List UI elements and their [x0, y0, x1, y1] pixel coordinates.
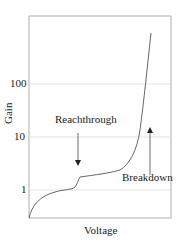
ytick-10: 10 [14, 130, 25, 142]
y-axis-label: Gain [2, 103, 14, 124]
reachthrough-arrow-icon [75, 160, 81, 166]
ytick-100: 100 [10, 77, 27, 89]
breakdown-annotation: Breakdown [122, 171, 173, 183]
reachthrough-annotation: Reachthrough [55, 113, 117, 125]
breakdown-arrow-icon [147, 127, 153, 133]
x-axis-label: Voltage [84, 224, 117, 236]
ytick-1: 1 [21, 183, 27, 195]
